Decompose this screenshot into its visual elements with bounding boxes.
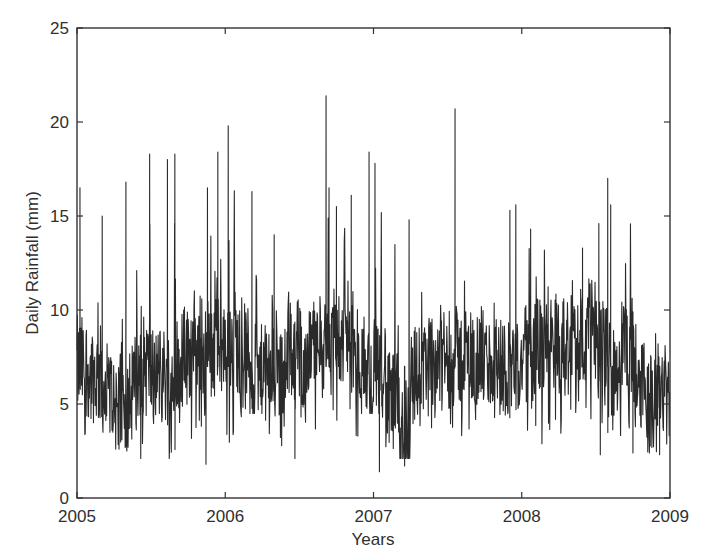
- x-tick-label: 2008: [503, 507, 541, 526]
- y-tick-label: 25: [50, 19, 69, 38]
- y-tick-label: 20: [50, 113, 69, 132]
- x-axis: 20052006200720082009: [58, 28, 689, 526]
- x-axis-title: Years: [352, 530, 395, 549]
- x-tick-label: 2005: [58, 507, 96, 526]
- x-tick-label: 2009: [651, 507, 689, 526]
- plot-frame: [77, 28, 670, 498]
- y-axis-title: Daily Rainfall (mm): [23, 191, 42, 335]
- x-tick-label: 2006: [206, 507, 244, 526]
- y-tick-label: 0: [60, 489, 69, 508]
- y-tick-label: 5: [60, 395, 69, 414]
- y-tick-label: 10: [50, 301, 69, 320]
- rainfall-chart: 0510152025 20052006200720082009 Years Da…: [0, 0, 708, 558]
- rainfall-line: [77, 96, 670, 472]
- x-tick-label: 2007: [355, 507, 393, 526]
- rainfall-series: [77, 96, 670, 472]
- y-tick-label: 15: [50, 207, 69, 226]
